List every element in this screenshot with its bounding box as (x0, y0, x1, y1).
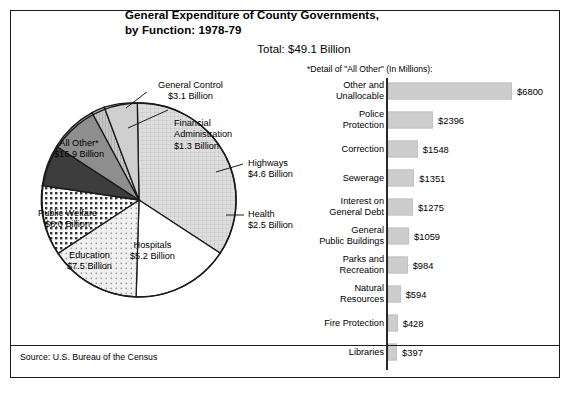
bar-row[interactable]: GeneralPublic Buildings$1059 (300, 223, 552, 249)
bar-label-line1: Libraries (234, 347, 384, 358)
pie-label-all-other-name: All Other* (54, 138, 104, 149)
bar-fill[interactable] (388, 141, 418, 158)
pie-label-general-control-name: General Control (158, 80, 223, 91)
bar-label-line2: Resources (234, 294, 384, 305)
bar-row[interactable]: Correction$1548 (300, 136, 552, 162)
pie-label-fin-admin-l1: Financial (174, 118, 232, 129)
footer-divider (10, 345, 560, 346)
bar-label-line1: Sewerage (234, 173, 384, 184)
bar-label-line1: Correction (234, 144, 384, 155)
bar-label-line1: Natural (234, 283, 384, 294)
bar-label: Sewerage (234, 173, 384, 184)
bar-value-label: $1059 (414, 231, 440, 242)
detail-heading: *Detail of "All Other" (In Millions): (307, 64, 433, 74)
bar-value-label: $2396 (438, 115, 464, 126)
pie-label-fin-admin-value: $1.3 Billion (174, 141, 232, 152)
pie-label-education-name: Education (67, 250, 112, 261)
pie-label-general-control: General Control $3.1 Billion (158, 80, 223, 103)
bar-label-line1: Other and (234, 80, 384, 91)
bar-row[interactable]: Sewerage$1351 (300, 165, 552, 191)
bar-label: Fire Protection (234, 318, 384, 329)
bar-fill[interactable] (388, 170, 414, 187)
pie-label-all-other: All Other* $16.9 Billion (54, 138, 104, 161)
bar-label: NaturalResources (234, 283, 384, 304)
bar-label-line1: Parks and (234, 254, 384, 265)
title-block: General Expenditure of County Government… (125, 8, 455, 55)
bar-label-line1: Interest on (234, 196, 384, 207)
bar-label: GeneralPublic Buildings (234, 225, 384, 246)
pie-label-financial-administration: Financial Administration $1.3 Billion (174, 118, 232, 152)
bar-value-label: $594 (406, 289, 427, 300)
bar-label: Interest onGeneral Debt (234, 196, 384, 217)
bar-label-line2: General Debt (234, 207, 384, 218)
bar-fill[interactable] (388, 286, 401, 303)
source-note: Source: U.S. Bureau of the Census (20, 352, 157, 362)
bar-label: PoliceProtection (234, 109, 384, 130)
pie-label-general-control-value: $3.1 Billion (158, 91, 223, 102)
bar-value-label: $397 (402, 347, 423, 358)
bar-label-line1: Fire Protection (234, 318, 384, 329)
bar-value-label: $984 (413, 260, 434, 271)
bar-label: Libraries (234, 347, 384, 358)
pie-label-hospitals-name: Hospitals (130, 240, 175, 251)
pie-label-public-welfare-name: Public Welfare (38, 208, 97, 219)
pie-label-education: Education $7.5 Billion (67, 250, 112, 273)
bar-row[interactable]: NaturalResources$594 (300, 281, 552, 307)
pie-label-hospitals: Hospitals $5.2 Billion (130, 240, 175, 263)
bar-fill[interactable] (388, 315, 398, 332)
chart-total: Total: $49.1 Billion (125, 43, 455, 55)
bar-label-line1: General (234, 225, 384, 236)
pie-label-highways-name: Highways (248, 158, 293, 169)
bar-value-label: $1548 (423, 144, 449, 155)
bar-row[interactable]: Other andUnallocable$6800 (300, 78, 552, 104)
bar-label-line2: Recreation (234, 265, 384, 276)
chart-title-line1: General Expenditure of County Government… (125, 8, 455, 23)
pie-label-education-value: $7.5 Billion (67, 261, 112, 272)
pie-label-hospitals-value: $5.2 Billion (130, 251, 175, 262)
bar-fill[interactable] (388, 228, 409, 245)
bar-label-line2: Unallocable (234, 91, 384, 102)
bar-value-label: $1351 (419, 173, 445, 184)
bar-fill[interactable] (388, 112, 433, 129)
bar-chart: Other andUnallocable$6800PoliceProtectio… (300, 78, 552, 370)
chart-title-line2: by Function: 1978-79 (125, 23, 455, 38)
bar-fill[interactable] (388, 83, 512, 100)
bar-fill[interactable] (388, 257, 408, 274)
bar-row[interactable]: PoliceProtection$2396 (300, 107, 552, 133)
bar-label: Parks andRecreation (234, 254, 384, 275)
pie-label-fin-admin-l2: Administration (174, 129, 232, 140)
bar-value-label: $428 (403, 318, 424, 329)
pie-label-public-welfare-value: $8.0 Billion (38, 219, 97, 230)
bar-fill[interactable] (388, 199, 413, 216)
bar-row[interactable]: Libraries$397 (300, 339, 552, 365)
bar-value-label: $1275 (418, 202, 444, 213)
bar-row[interactable]: Fire Protection$428 (300, 310, 552, 336)
bar-row[interactable]: Parks andRecreation$984 (300, 252, 552, 278)
bar-label-line2: Public Buildings (234, 236, 384, 247)
bar-label-line2: Protection (234, 120, 384, 131)
bar-label: Other andUnallocable (234, 80, 384, 101)
bar-row[interactable]: Interest onGeneral Debt$1275 (300, 194, 552, 220)
pie-chart: All Other* $16.9 Billion Public Welfare … (30, 92, 256, 318)
bar-label-line1: Police (234, 109, 384, 120)
bar-value-label: $6800 (517, 86, 543, 97)
bar-label: Correction (234, 144, 384, 155)
pie-label-public-welfare: Public Welfare $8.0 Billion (38, 208, 97, 231)
pie-label-all-other-value: $16.9 Billion (54, 149, 104, 160)
